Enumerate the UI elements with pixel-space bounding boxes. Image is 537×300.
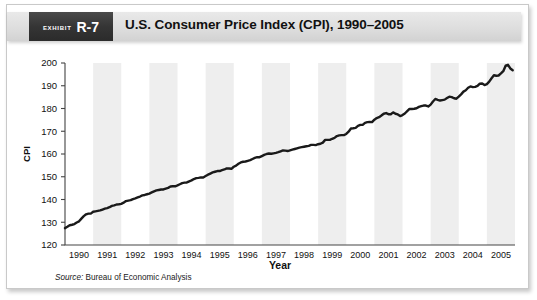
x-axis-label: Year: [269, 259, 291, 271]
year-band: [149, 63, 177, 245]
year-band: [318, 63, 346, 245]
x-axis-tick-label: 2004: [463, 250, 483, 260]
y-axis-tick-label: 170: [41, 126, 57, 137]
exhibit-number: R-7: [77, 19, 100, 35]
y-axis-tick-label: 160: [41, 148, 57, 159]
year-band: [206, 63, 234, 245]
y-axis-tick-label: 150: [41, 171, 57, 182]
x-axis-tick-label: 2000: [350, 250, 370, 260]
page-title: U.S. Consumer Price Index (CPI), 1990–20…: [125, 17, 404, 32]
year-band: [487, 63, 515, 245]
exhibit-figure: Exhibit R-7 U.S. Consumer Price Index (C…: [6, 4, 529, 289]
chart-plot-area: 120130140150160170180190200 199019911992…: [7, 41, 530, 288]
year-band: [431, 63, 459, 245]
x-axis-tick-label: 1996: [238, 250, 258, 260]
x-axis-tick-label: 2001: [378, 250, 398, 260]
y-axis-tick-label: 190: [41, 80, 57, 91]
x-axis-tick-label: 2003: [435, 250, 455, 260]
y-axis-tick-label: 120: [41, 239, 57, 250]
x-axis-tick-label: 1991: [97, 250, 117, 260]
source-text: Bureau of Economic Analysis: [86, 273, 192, 282]
y-axis-tick-labels: 120130140150160170180190200: [41, 57, 57, 250]
x-axis-tick-label: 1994: [182, 250, 202, 260]
exhibit-label: Exhibit: [43, 22, 72, 32]
cpi-line-chart: 120130140150160170180190200 199019911992…: [7, 41, 530, 288]
x-axis-tick-label: 1999: [322, 250, 342, 260]
year-band: [93, 63, 121, 245]
x-axis-tick-label: 1992: [125, 250, 145, 260]
y-axis-tick-label: 130: [41, 217, 57, 228]
y-axis-tick-label: 200: [41, 57, 57, 68]
year-band: [374, 63, 402, 245]
x-axis-tick-label: 1995: [210, 250, 230, 260]
y-axis-tick-label: 140: [41, 194, 57, 205]
x-axis-tick-label: 1993: [153, 250, 173, 260]
y-axis-ticks: [61, 63, 65, 245]
source-label: Source:: [55, 273, 83, 282]
x-axis-tick-label: 2005: [491, 250, 511, 260]
exhibit-badge: Exhibit R-7: [29, 12, 113, 41]
y-axis-tick-label: 180: [41, 103, 57, 114]
x-axis-tick-label: 1998: [294, 250, 314, 260]
x-axis-tick-label: 2002: [407, 250, 427, 260]
source-note: Source: Bureau of Economic Analysis: [55, 273, 192, 282]
x-axis-tick-label: 1990: [69, 250, 89, 260]
year-bands: [93, 63, 515, 245]
y-axis-label: CPI: [21, 146, 32, 162]
